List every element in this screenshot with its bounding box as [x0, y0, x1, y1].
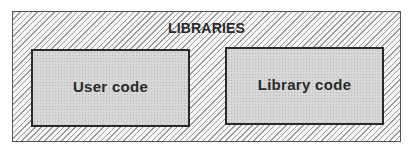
library-code-label: Library code: [258, 76, 352, 93]
library-code-box: Library code: [225, 47, 384, 125]
libraries-container: LIBRARIES User code Library code: [12, 11, 401, 142]
user-code-label: User code: [73, 78, 148, 95]
user-code-box: User code: [31, 49, 190, 127]
libraries-title: LIBRARIES: [13, 20, 400, 36]
